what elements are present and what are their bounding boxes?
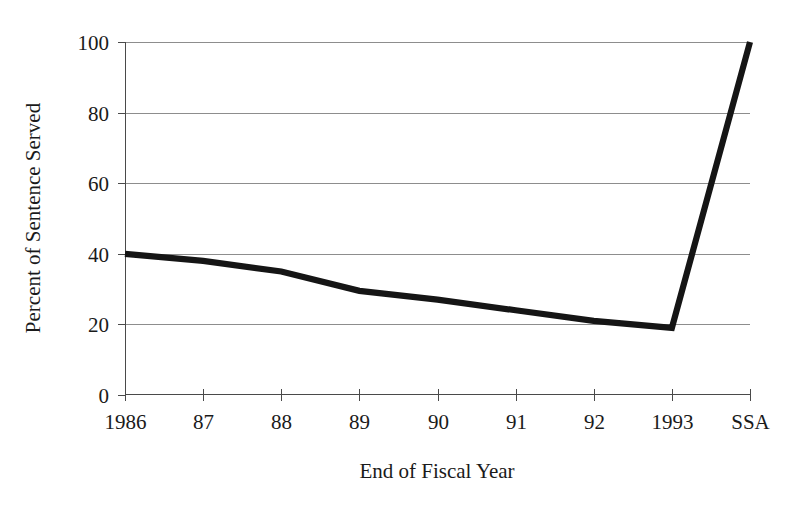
line-chart: 100806040200 19868788899091921993SSA Per… xyxy=(0,0,800,507)
y-axis-tick-label: 20 xyxy=(88,313,109,337)
x-axis-title: End of Fiscal Year xyxy=(359,459,514,483)
y-axis-tick-label: 80 xyxy=(88,102,109,126)
y-axis-title: Percent of Sentence Served xyxy=(21,102,45,333)
y-axis-tick-label: 60 xyxy=(88,172,109,196)
x-axis-tick-label: 89 xyxy=(349,410,370,434)
x-axis-tick-label: SSA xyxy=(731,410,770,434)
y-axis-tick-label: 0 xyxy=(99,384,110,408)
x-axis-tick-label: 92 xyxy=(584,410,605,434)
y-axis-tick-label: 100 xyxy=(78,31,110,55)
y-axis-tick-label: 40 xyxy=(88,243,109,267)
x-axis-tick-label: 90 xyxy=(428,410,449,434)
x-axis-tick-label: 87 xyxy=(193,410,214,434)
x-axis-tick-label: 91 xyxy=(506,410,527,434)
x-axis-tick-label: 1993 xyxy=(652,410,694,434)
x-axis-tick-label: 1986 xyxy=(105,410,147,434)
x-axis-tick-labels: 19868788899091921993SSA xyxy=(105,410,771,434)
chart-container: 100806040200 19868788899091921993SSA Per… xyxy=(0,0,800,507)
x-axis-tick-label: 88 xyxy=(271,410,292,434)
